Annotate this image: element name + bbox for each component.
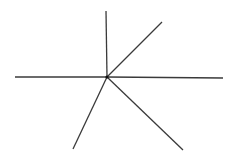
ray-up bbox=[106, 11, 107, 77]
ray-right bbox=[107, 77, 223, 78]
star-diagram bbox=[0, 0, 231, 158]
rays-group bbox=[15, 11, 223, 150]
ray-lower-left bbox=[73, 77, 107, 149]
center-point bbox=[105, 75, 108, 78]
ray-lower-right bbox=[107, 77, 183, 150]
ray-upper-right bbox=[107, 22, 162, 77]
